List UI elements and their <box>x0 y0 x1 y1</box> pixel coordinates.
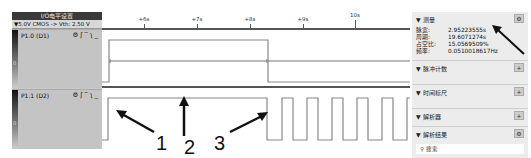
tick-mark <box>303 24 304 28</box>
tick-label: +8s <box>245 16 256 22</box>
annotation-label-3: 3 <box>214 132 225 155</box>
annotation-label-1: 1 <box>156 132 167 155</box>
rising-edge-icon[interactable]: ʃ <box>80 91 82 99</box>
tick-label: +9s <box>298 16 309 22</box>
annotation-arrows <box>102 88 410 158</box>
tick-mark <box>355 20 356 28</box>
channel-label: P1.1 (D2) <box>21 92 49 99</box>
low-level-icon[interactable]: _ <box>95 31 98 39</box>
level-setting-dropdown[interactable]: ▼5.0V CMOS -> Vth: 2.50 V <box>12 20 102 29</box>
search-input[interactable]: ⚲ 搜索 <box>416 144 524 154</box>
add-time-ruler-button[interactable]: + <box>514 87 524 96</box>
gear-icon[interactable]: ⚙ <box>72 91 78 99</box>
low-level-icon[interactable]: _ <box>95 91 98 99</box>
tick-mark <box>144 24 145 28</box>
gear-icon[interactable]: ⚙ <box>72 31 78 39</box>
falling-edge-icon[interactable]: ʅ <box>90 91 93 99</box>
rising-edge-icon[interactable]: ʃ <box>80 31 82 39</box>
channel-zero-label: 0 <box>13 120 16 126</box>
channel-color-strip <box>12 30 18 88</box>
high-level-icon[interactable]: ‾ <box>85 91 88 99</box>
add-pulse-count-button[interactable]: + <box>514 63 524 72</box>
analysis-results-section: ▼ 解析结果 ⚙ <box>412 127 528 142</box>
channel-zero-label: 0 <box>13 60 16 66</box>
time-ruler-section: ▼ 时间标尺 + <box>412 85 528 109</box>
channel-label: P1.0 (D1) <box>21 32 49 39</box>
tick-label: +7s <box>192 16 203 22</box>
tick-label: +6s <box>139 16 150 22</box>
search-placeholder: 搜索 <box>426 146 438 152</box>
high-level-icon[interactable]: ‾ <box>85 31 88 39</box>
arrow-3 <box>230 116 262 132</box>
channel-row-d1[interactable]: 0 P1.0 (D1) ⚙ ʃ ‾ ʅ _ <box>12 29 102 88</box>
time-ruler[interactable]: +6s +7s +8s +9s 10s <box>102 12 410 30</box>
arrow-1 <box>122 114 154 132</box>
tick-mark <box>250 24 251 28</box>
channel-row-d2[interactable]: 0 P1.1 (D2) ⚙ ʃ ‾ ʅ _ <box>12 89 102 149</box>
arrow-2-head <box>179 96 189 106</box>
logic-analyzer-window: I/O电平设置 ▼5.0V CMOS -> Vth: 2.50 V 0 P1.0… <box>0 12 531 158</box>
falling-edge-icon[interactable]: ʅ <box>90 31 93 39</box>
pointer-arrow <box>488 22 528 56</box>
analyzer-section: ▼ 解析器 + <box>412 109 528 127</box>
search-icon: ⚲ <box>420 146 424 152</box>
tick-label: 10s <box>350 12 360 18</box>
gear-icon[interactable]: ⚙ <box>514 129 524 138</box>
pulse-count-section: ▼ 脉冲计数 + <box>412 61 528 85</box>
tick-mark <box>197 24 198 28</box>
channel-panel: I/O电平设置 ▼5.0V CMOS -> Vth: 2.50 V 0 P1.0… <box>12 12 102 148</box>
annotation-label-2: 2 <box>184 136 195 158</box>
measure-section: ▼ 测量 ⚙ 脉宽: 2.95223555s 周期: 19.6071274s 占… <box>412 12 528 61</box>
side-panel: ▼ 测量 ⚙ 脉宽: 2.95223555s 周期: 19.6071274s 占… <box>412 12 528 158</box>
io-level-header: I/O电平设置 <box>12 12 102 20</box>
add-analyzer-button[interactable]: + <box>514 111 524 120</box>
